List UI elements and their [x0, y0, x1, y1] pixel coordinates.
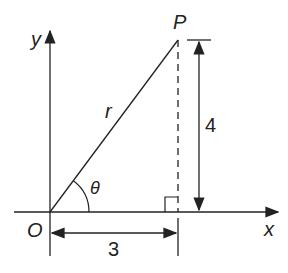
hypotenuse-label: r — [105, 100, 113, 122]
right-angle-marker — [165, 197, 178, 212]
theta-arc — [73, 181, 89, 212]
polar-triangle-diagram: y x O P r θ 4 3 — [0, 0, 288, 273]
hypotenuse-r — [50, 40, 178, 212]
y-axis-label: y — [29, 28, 42, 50]
point-p-label: P — [173, 11, 187, 33]
horizontal-dimension-label: 3 — [108, 238, 119, 260]
x-axis-label: x — [263, 218, 275, 240]
vertical-dimension-label: 4 — [205, 114, 216, 136]
angle-theta-label: θ — [90, 178, 100, 198]
origin-label: O — [27, 219, 43, 241]
